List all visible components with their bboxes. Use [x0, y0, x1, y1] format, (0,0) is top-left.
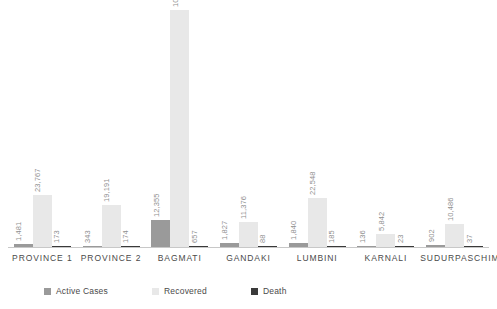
- bar-group: 90210,48637: [420, 10, 489, 247]
- bar-group: 34319,191174: [77, 10, 146, 247]
- bar-slot: 343: [83, 10, 102, 247]
- bar-recovered[interactable]: [33, 195, 52, 247]
- bar-slot: 1,481: [14, 10, 33, 247]
- category-label-sudurpaschim: SUDURPASCHIM: [420, 252, 489, 264]
- plot-area: 1,48123,76717334319,19117412,355108,8576…: [8, 10, 489, 248]
- bar-value-label: 1,840: [290, 221, 298, 240]
- bar-value-label: 22,548: [309, 171, 317, 195]
- bar-active[interactable]: [426, 245, 445, 247]
- chart-legend: Active CasesRecoveredDeath: [44, 286, 331, 296]
- bar-death[interactable]: [327, 246, 346, 247]
- category-axis-labels: PROVINCE 1PROVINCE 2BAGMATIGANDAKILUMBIN…: [8, 252, 489, 266]
- bar-recovered[interactable]: [102, 205, 121, 247]
- bar-slot: 136: [357, 10, 376, 247]
- bar-value-label: 23,767: [34, 169, 42, 193]
- bar-value-label: 12,355: [153, 194, 161, 218]
- bar-value-label: 88: [259, 234, 267, 243]
- bar-death[interactable]: [258, 246, 277, 247]
- category-label-karnali: KARNALI: [352, 252, 421, 264]
- bar-active[interactable]: [220, 243, 239, 247]
- bar-value-label: 185: [328, 230, 336, 243]
- bar-value-label: 19,191: [103, 179, 111, 203]
- bar-slot: 37: [464, 10, 483, 247]
- category-label-gandaki: GANDAKI: [214, 252, 283, 264]
- bar-slot: 1,840: [289, 10, 308, 247]
- bar-value-label: 37: [466, 234, 474, 243]
- bar-group: 1,48123,767173: [8, 10, 77, 247]
- bar-group: 1365,84223: [352, 10, 421, 247]
- category-label-bagmati: BAGMATI: [145, 252, 214, 264]
- legend-label: Active Cases: [56, 286, 108, 296]
- category-label-lumbini: LUMBINI: [283, 252, 352, 264]
- bar-value-label: 11,376: [240, 196, 248, 219]
- bar-slot: 19,191: [102, 10, 121, 247]
- bar-death[interactable]: [52, 246, 71, 247]
- bar-value-label: 10,486: [447, 198, 455, 222]
- legend-swatch-icon: [44, 288, 51, 295]
- bar-slot: 88: [258, 10, 277, 247]
- bar-active[interactable]: [14, 244, 33, 247]
- legend-label: Recovered: [164, 286, 207, 296]
- bar-death[interactable]: [189, 246, 208, 247]
- bar-active[interactable]: [289, 243, 308, 247]
- bar-value-label: 657: [191, 230, 199, 243]
- bar-death[interactable]: [395, 246, 414, 247]
- bar-recovered[interactable]: [445, 224, 464, 247]
- bar-value-label: 1,481: [15, 222, 23, 241]
- bar-slot: 22,548: [308, 10, 327, 247]
- bar-chart: 1,48123,76717334319,19117412,355108,8576…: [0, 0, 497, 309]
- bar-death[interactable]: [464, 246, 483, 247]
- legend-swatch-icon: [152, 288, 159, 295]
- category-label-province-2: PROVINCE 2: [77, 252, 146, 264]
- bar-slot: 5,842: [376, 10, 395, 247]
- bar-value-label: 108,857: [172, 0, 180, 7]
- category-label-province-1: PROVINCE 1: [8, 252, 77, 264]
- bar-slot: 657: [189, 10, 208, 247]
- bar-value-label: 174: [122, 230, 130, 243]
- bar-value-label: 23: [397, 234, 405, 243]
- legend-item[interactable]: Active Cases: [44, 286, 108, 296]
- bar-slot: 174: [121, 10, 140, 247]
- bar-recovered[interactable]: [376, 234, 395, 247]
- bar-recovered[interactable]: [170, 10, 189, 247]
- bar-slot: 108,857: [170, 10, 189, 247]
- bar-active[interactable]: [357, 246, 376, 247]
- bar-slot: 902: [426, 10, 445, 247]
- legend-item[interactable]: Death: [251, 286, 287, 296]
- bar-slot: 173: [52, 10, 71, 247]
- bar-slot: 10,486: [445, 10, 464, 247]
- bar-value-label: 173: [53, 230, 61, 243]
- bar-slot: 1,827: [220, 10, 239, 247]
- bar-value-label: 1,827: [221, 221, 229, 240]
- bar-group: 1,82711,37688: [214, 10, 283, 247]
- bar-value-label: 902: [428, 229, 436, 242]
- legend-item[interactable]: Recovered: [152, 286, 207, 296]
- bar-active[interactable]: [151, 220, 170, 247]
- bar-slot: 23,767: [33, 10, 52, 247]
- bar-recovered[interactable]: [239, 222, 258, 247]
- legend-swatch-icon: [251, 288, 258, 295]
- bar-value-label: 136: [359, 230, 367, 243]
- bar-group: 12,355108,857657: [145, 10, 214, 247]
- bar-value-label: 343: [84, 230, 92, 243]
- bar-slot: 23: [395, 10, 414, 247]
- bar-slot: 185: [327, 10, 346, 247]
- bar-recovered[interactable]: [308, 198, 327, 247]
- bar-value-label: 5,842: [378, 212, 386, 231]
- bar-active[interactable]: [83, 246, 102, 247]
- x-axis-line: [8, 247, 489, 248]
- bar-death[interactable]: [121, 246, 140, 247]
- bar-slot: 12,355: [151, 10, 170, 247]
- bar-slot: 11,376: [239, 10, 258, 247]
- bar-group: 1,84022,548185: [283, 10, 352, 247]
- legend-label: Death: [263, 286, 287, 296]
